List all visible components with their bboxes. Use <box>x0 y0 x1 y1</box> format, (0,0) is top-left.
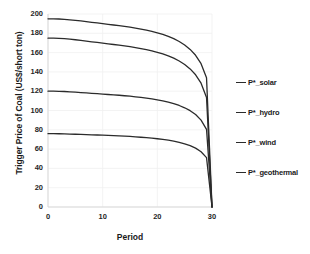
legend-label: P*_geothermal <box>248 168 298 177</box>
y-tick-label: 80 <box>17 125 43 134</box>
chart-figure: Trigger Price of Coal (US$/short ton) Pe… <box>0 0 310 254</box>
y-tick-label: 120 <box>17 86 43 95</box>
gridlines <box>48 14 212 207</box>
x-tick-label: 0 <box>36 212 60 221</box>
x-axis-label: Period <box>48 232 212 242</box>
legend-item: P*_wind <box>236 138 310 147</box>
x-tick-label: 20 <box>145 212 169 221</box>
legend-line-icon <box>236 142 246 143</box>
y-tick-label: 0 <box>17 202 43 211</box>
y-tick-label: 100 <box>17 106 43 115</box>
chart-legend: P*_solar P*_hydro P*_wind P*_geothermal <box>236 78 310 198</box>
legend-label: P*_hydro <box>248 108 279 117</box>
legend-item: P*_geothermal <box>236 168 310 177</box>
y-tick-label: 140 <box>17 67 43 76</box>
y-tick-label: 160 <box>17 48 43 57</box>
y-tick-label: 60 <box>17 144 43 153</box>
legend-label: P*_wind <box>248 138 276 147</box>
x-tick-label: 10 <box>91 212 115 221</box>
x-tick-label: 30 <box>200 212 224 221</box>
y-tick-label: 20 <box>17 183 43 192</box>
y-tick-label: 40 <box>17 163 43 172</box>
data-series-layer <box>48 19 212 207</box>
legend-label: P*_solar <box>248 78 276 87</box>
legend-line-icon <box>236 172 246 173</box>
legend-line-icon <box>236 112 246 113</box>
legend-line-icon <box>236 82 246 83</box>
legend-item: P*_solar <box>236 78 310 87</box>
y-tick-label: 180 <box>17 28 43 37</box>
y-tick-label: 200 <box>17 9 43 18</box>
legend-item: P*_hydro <box>236 108 310 117</box>
